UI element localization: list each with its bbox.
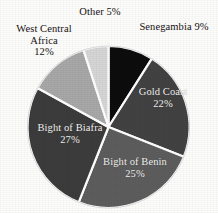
- pie-chart-figure: West Central Africa 12% Other 5% Senegam…: [0, 0, 218, 213]
- pie-label-west-central-africa: West Central Africa 12%: [0, 23, 90, 58]
- pie-label-bight-of-biafra: Bight of Biafra 27%: [22, 122, 118, 145]
- chart-plot-area: West Central Africa 12% Other 5% Senegam…: [0, 0, 218, 213]
- pie-label-bight-of-benin: Bight of Benin 25%: [88, 156, 182, 179]
- pie-label-senegambia: Senegambia 9%: [128, 21, 218, 33]
- pie-label-gold-coast: Gold Coast 22%: [120, 86, 206, 109]
- pie-label-other: Other 5%: [62, 6, 138, 18]
